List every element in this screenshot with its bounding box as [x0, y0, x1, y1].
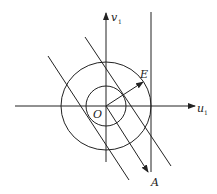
label-a: A	[150, 176, 159, 189]
vector-oa	[106, 106, 148, 172]
label-v-axis-sub: 1	[118, 18, 122, 25]
label-origin: O	[93, 108, 102, 121]
label-e: E	[139, 68, 148, 81]
vector-oe	[106, 82, 143, 106]
diagonal-line-right	[85, 37, 171, 166]
label-v-axis: v	[111, 11, 118, 24]
diagonal-line-left	[48, 56, 129, 180]
label-u-axis-sub: 1	[204, 109, 208, 116]
diagram-canvas: v 1 u 1 O E A	[0, 0, 217, 194]
